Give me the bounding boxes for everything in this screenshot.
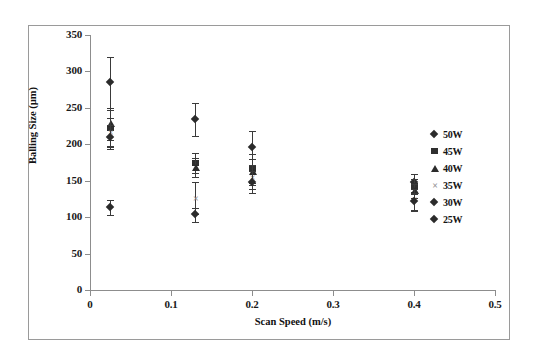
y-tick-label-wrap: 250 [38, 101, 82, 113]
x-tick-label: 0.2 [232, 298, 272, 310]
y-tick-label: 50 [42, 247, 82, 259]
legend-item-50w[interactable]: 50W [428, 126, 490, 143]
error-bar-cap [192, 158, 199, 159]
y-axis-line [90, 35, 91, 290]
error-bar-cap [249, 131, 256, 132]
x-tick-label: 0.5 [475, 298, 515, 310]
figure-canvas: Balling Size (µm) Scan Speed (m/s) 05010… [0, 0, 535, 361]
error-bar-cap [107, 215, 114, 216]
legend-item-30w[interactable]: 30W [428, 194, 490, 211]
error-bar-cap [411, 189, 418, 190]
diamond-icon [428, 196, 441, 209]
error-bar-cap [249, 193, 256, 194]
error-bar-cap [411, 211, 418, 212]
error-bar-cap [249, 165, 256, 166]
y-tick-label-wrap: 0 [38, 283, 82, 295]
error-bar-cap [107, 118, 114, 119]
data-point-40w [192, 164, 200, 171]
y-axis-title: Balling Size (µm) [27, 56, 38, 196]
error-bar-cap [192, 103, 199, 104]
legend-label: 40W [443, 163, 462, 174]
x-tick-mark [90, 291, 91, 296]
y-tick-label-wrap: 150 [38, 174, 82, 186]
y-tick-mark [85, 181, 90, 182]
x-axis-line [90, 290, 496, 291]
error-bar-cap [107, 149, 114, 150]
y-tick-mark [85, 217, 90, 218]
error-bar-cap [107, 125, 114, 126]
y-tick-label-wrap: 100 [38, 210, 82, 222]
error-bar-cap [192, 208, 199, 209]
error-bar-cap [411, 179, 418, 180]
y-tick-mark [85, 35, 90, 36]
error-bar-cap [192, 222, 199, 223]
triangle-icon [428, 162, 441, 175]
error-bar-cap [107, 57, 114, 58]
error-bar-cap [411, 193, 418, 194]
y-tick-label: 350 [42, 28, 82, 40]
y-tick-label: 100 [42, 210, 82, 222]
legend-label: 30W [443, 197, 462, 208]
legend-item-40w[interactable]: 40W [428, 160, 490, 177]
data-point-35w: × [192, 195, 200, 203]
y-tick-label: 0 [42, 283, 82, 295]
x-tick-label: 0.1 [151, 298, 191, 310]
x-tick-mark [333, 291, 334, 296]
legend-label: 45W [443, 146, 462, 157]
x-tick-mark [252, 291, 253, 296]
error-bar-cap [192, 153, 199, 154]
y-tick-mark [85, 108, 90, 109]
chart-legend: 50W45W40W×35W30W25W [428, 126, 490, 228]
x-tick-mark [171, 291, 172, 296]
error-bar-cap [249, 171, 256, 172]
error-bar-cap [411, 184, 418, 185]
y-tick-label-wrap: 350 [38, 28, 82, 40]
x-tick-label: 0 [70, 298, 110, 310]
y-tick-mark [85, 71, 90, 72]
legend-item-35w[interactable]: ×35W [428, 177, 490, 194]
diamond-icon [428, 128, 441, 141]
error-bar-cap [107, 108, 114, 109]
y-tick-mark [85, 144, 90, 145]
legend-label: 50W [443, 129, 462, 140]
legend-item-25w[interactable]: 25W [428, 211, 490, 228]
y-tick-label: 250 [42, 101, 82, 113]
error-bar-cap [249, 154, 256, 155]
y-tick-label-wrap: 200 [38, 137, 82, 149]
error-bar-cap [192, 177, 199, 178]
x-tick-mark [414, 291, 415, 296]
y-tick-label: 300 [42, 64, 82, 76]
y-tick-label: 150 [42, 174, 82, 186]
error-bar-cap [192, 182, 199, 183]
x-axis-title: Scan Speed (m/s) [90, 316, 496, 327]
y-tick-label-wrap: 300 [38, 64, 82, 76]
error-bar-cap [192, 136, 199, 137]
error-bar-cap [411, 174, 418, 175]
cross-icon: × [428, 179, 441, 192]
error-bar-cap [249, 159, 256, 160]
error-bar-cap [107, 200, 114, 201]
x-tick-label: 0.3 [313, 298, 353, 310]
y-tick-label: 200 [42, 137, 82, 149]
x-tick-label: 0.4 [394, 298, 434, 310]
legend-label: 35W [443, 180, 462, 191]
x-tick-mark [495, 291, 496, 296]
legend-label: 25W [443, 214, 462, 225]
y-tick-label-wrap: 50 [38, 247, 82, 259]
legend-item-45w[interactable]: 45W [428, 143, 490, 160]
y-tick-mark [85, 254, 90, 255]
square-icon [428, 145, 441, 158]
diamond-icon [428, 213, 441, 226]
